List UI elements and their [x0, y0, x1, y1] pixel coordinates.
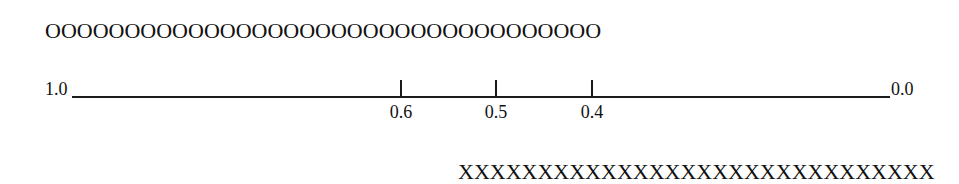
- tick-mark-0.4: [591, 80, 593, 97]
- scale-axis-line: [72, 96, 890, 98]
- o-symbol-row: OOOOOOOOOOOOOOOOOOOOOOOOOOOOOOOOOOO: [45, 20, 601, 42]
- scale-right-label: 0.0: [891, 80, 914, 98]
- tick-label-0.4: 0.4: [581, 103, 604, 121]
- scale-left-label: 1.0: [45, 80, 68, 98]
- tick-mark-0.6: [400, 80, 402, 97]
- tick-label-0.5: 0.5: [485, 103, 508, 121]
- tick-label-0.6: 0.6: [390, 103, 413, 121]
- tick-mark-0.5: [495, 80, 497, 97]
- x-symbol-row: XXXXXXXXXXXXXXXXXXXXXXXXXXXXXX: [458, 161, 935, 183]
